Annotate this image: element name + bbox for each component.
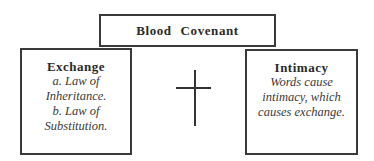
exchange-line-3: b. Law of	[22, 104, 130, 119]
blood-covenant-box: Blood Covenant	[99, 14, 276, 47]
blood-covenant-title: Blood Covenant	[136, 23, 239, 39]
intimacy-line-1: Words cause	[247, 75, 356, 90]
intimacy-line-2: intimacy, which	[247, 90, 356, 105]
cross-horizontal-bar	[176, 87, 211, 89]
cross-vertical-bar	[194, 70, 196, 126]
exchange-box: Exchange a. Law of Inheritance. b. Law o…	[20, 48, 132, 155]
intimacy-line-3: causes exchange.	[247, 105, 356, 120]
exchange-line-2: Inheritance.	[22, 89, 130, 104]
exchange-title: Exchange	[22, 60, 130, 74]
intimacy-box: Intimacy Words cause intimacy, which cau…	[245, 49, 358, 155]
intimacy-title: Intimacy	[247, 61, 356, 75]
exchange-line-1: a. Law of	[22, 74, 130, 89]
exchange-line-4: Substitution.	[22, 119, 130, 134]
